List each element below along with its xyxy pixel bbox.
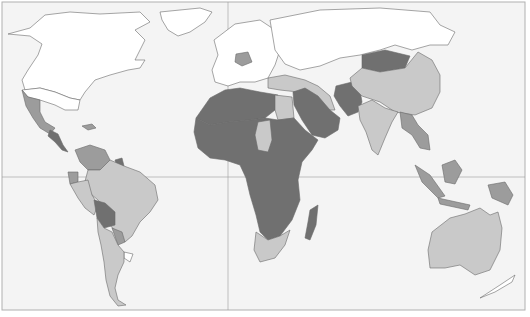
world-map — [0, 0, 530, 317]
region-chad — [255, 120, 272, 152]
region-egypt — [275, 95, 294, 120]
